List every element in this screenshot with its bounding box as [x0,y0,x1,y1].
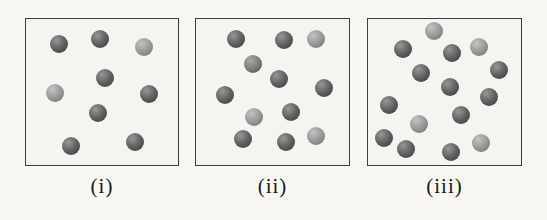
particle-sphere [380,96,398,114]
particle-sphere [425,22,443,40]
panel-ii: (ii) [195,18,350,166]
particle-sphere [442,143,460,161]
particle-sphere [282,103,300,121]
particle-sphere [140,85,158,103]
particle-sphere [443,44,461,62]
particle-sphere [62,137,80,155]
particle-sphere [375,129,393,147]
particle-sphere [410,115,428,133]
box-label-ii: (ii) [195,176,350,197]
particle-sphere [244,55,262,73]
panel-i: (i) [25,18,179,166]
particle-sphere [277,133,295,151]
particle-sphere [216,86,234,104]
particle-sphere [50,35,68,53]
particle-sphere [135,38,153,56]
particle-sphere [227,30,245,48]
box-frame-i [25,18,179,166]
particle-sphere [126,133,144,151]
particle-sphere [307,30,325,48]
particle-sphere [270,70,288,88]
particle-sphere [441,78,459,96]
box-frame-iii [367,18,522,166]
particle-sphere [234,130,252,148]
particle-sphere [307,127,325,145]
particle-sphere [245,108,263,126]
particle-sphere [480,88,498,106]
box-label-iii: (iii) [367,176,522,197]
particle-sphere [275,31,293,49]
particle-sphere [472,134,490,152]
particle-sphere [452,106,470,124]
particle-sphere [315,79,333,97]
particle-sphere [470,38,488,56]
panel-iii: (iii) [367,18,522,166]
particle-sphere [46,84,64,102]
particle-sphere [89,104,107,122]
particle-sphere [397,140,415,158]
particle-sphere [91,30,109,48]
particle-sphere [394,40,412,58]
particle-sphere [490,61,508,79]
box-label-i: (i) [25,176,179,197]
particle-sphere [96,69,114,87]
particle-sphere [412,64,430,82]
particle-diagram-figure: (i) (ii) (iii) [0,0,547,220]
box-frame-ii [195,18,350,166]
